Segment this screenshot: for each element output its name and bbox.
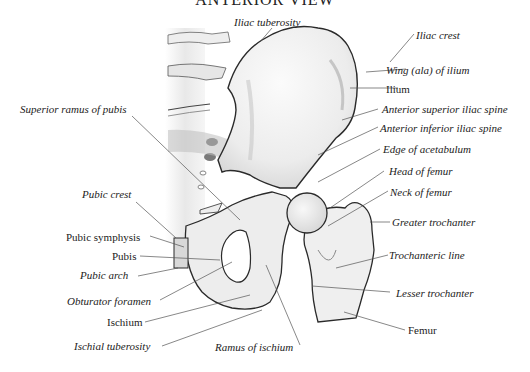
label-ramus-of-ischium: Ramus of ischium	[215, 341, 293, 353]
label-edge-of-acetabulum: Edge of acetabulum	[383, 143, 471, 155]
label-head-of-femur: Head of femur	[389, 165, 453, 177]
label-superior-ramus-of-pubis: Superior ramus of pubis	[20, 103, 127, 115]
label-pubic-symphysis: Pubic symphysis	[66, 231, 140, 243]
diagram-title: ANTERIOR VIEW	[0, 0, 530, 9]
label-iliac-tuberosity: Iliac tuberosity	[234, 16, 301, 28]
label-wing-of-ilium: Wing (ala) of ilium	[386, 64, 469, 76]
spine-sacrum	[165, 28, 230, 243]
label-lesser-trochanter: Lesser trochanter	[396, 287, 474, 299]
label-anterior-inferior-iliac-spine: Anterior inferior iliac spine	[380, 122, 502, 134]
label-pubis: Pubis	[112, 250, 136, 262]
label-pubic-crest: Pubic crest	[82, 188, 131, 200]
label-pubic-arch: Pubic arch	[80, 269, 128, 281]
label-ischial-tuberosity: Ischial tuberosity	[74, 340, 150, 352]
label-ischium: Ischium	[107, 316, 142, 328]
femoral-head-shape	[287, 193, 327, 233]
pubic-symphysis-shape	[174, 238, 188, 268]
label-obturator-foramen: Obturator foramen	[67, 295, 151, 307]
label-neck-of-femur: Neck of femur	[390, 186, 452, 198]
ilium-wing	[218, 27, 357, 189]
label-iliac-crest: Iliac crest	[416, 29, 460, 41]
label-anterior-superior-iliac-spine: Anterior superior iliac spine	[382, 103, 508, 115]
label-trochanteric-line: Trochanteric line	[389, 249, 465, 261]
label-femur: Femur	[408, 324, 437, 336]
label-ilium: Ilium	[386, 83, 410, 95]
label-greater-trochanter: Greater trochanter	[392, 216, 475, 228]
